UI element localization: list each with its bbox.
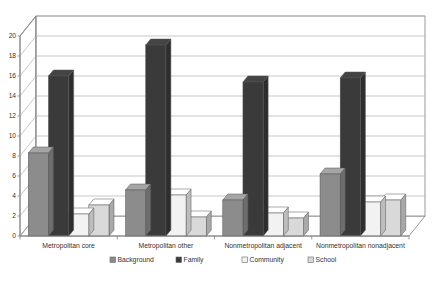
legend-item-background[interactable]: Background [110, 256, 154, 264]
legend-label-community: Community [250, 256, 285, 264]
legend-swatch-school [308, 257, 314, 263]
bar-side-face [401, 194, 406, 236]
bar-side-face [48, 147, 53, 236]
category-label: Metropolitan core [42, 242, 95, 250]
y-axis-tick-label: 16 [9, 72, 17, 79]
y-axis-tick-label: 0 [12, 232, 16, 239]
category-label: Metropolitan other [138, 242, 194, 250]
bar-3-background[interactable] [223, 194, 248, 236]
bar-front-face [320, 174, 340, 236]
bar-side-face [263, 76, 268, 236]
bar-front-face [126, 190, 146, 236]
bar-chart: 02468101214161820Metropolitan coreMetrop… [0, 0, 442, 282]
bar-side-face [381, 196, 386, 236]
legend-label-family: Family [184, 256, 205, 264]
legend-swatch-background [110, 257, 116, 263]
bar-side-face [109, 199, 114, 236]
y-axis-tick-label: 8 [12, 152, 16, 159]
bar-side-face [146, 184, 151, 236]
bar-side-face [69, 70, 74, 236]
legend-item-school[interactable]: School [308, 256, 337, 263]
legend-item-family[interactable]: Family [176, 256, 204, 264]
y-axis-tick-label: 4 [12, 192, 16, 199]
bar-2-background[interactable] [126, 184, 151, 236]
legend-item-community[interactable]: Community [242, 256, 284, 264]
bar-1-background[interactable] [28, 147, 53, 236]
bar-side-face [243, 194, 248, 236]
legend-swatch-community [242, 257, 248, 263]
bar-front-face [223, 200, 243, 236]
chart-container: 02468101214161820Metropolitan coreMetrop… [0, 0, 442, 282]
y-axis-tick-label: 14 [9, 92, 17, 99]
category-label: Nonmetropolitan nonadjacent [316, 242, 405, 250]
legend-label-school: School [316, 256, 337, 263]
bar-4-background[interactable] [320, 168, 345, 236]
bar-side-face [186, 189, 191, 236]
y-axis-tick-label: 2 [12, 212, 16, 219]
y-axis-tick-label: 20 [9, 32, 17, 39]
bar-side-face [360, 72, 365, 236]
y-axis-tick-label: 6 [12, 172, 16, 179]
bar-side-face [166, 39, 171, 236]
legend-label-background: Background [118, 256, 154, 264]
bar-front-face [28, 153, 48, 236]
category-label: Nonmetropolitan adjacent [224, 242, 302, 250]
y-axis-tick-label: 10 [9, 132, 17, 139]
bar-side-face [340, 168, 345, 236]
y-axis-tick-label: 18 [9, 52, 17, 59]
legend-swatch-family [176, 257, 182, 263]
y-axis-tick-label: 12 [9, 112, 17, 119]
